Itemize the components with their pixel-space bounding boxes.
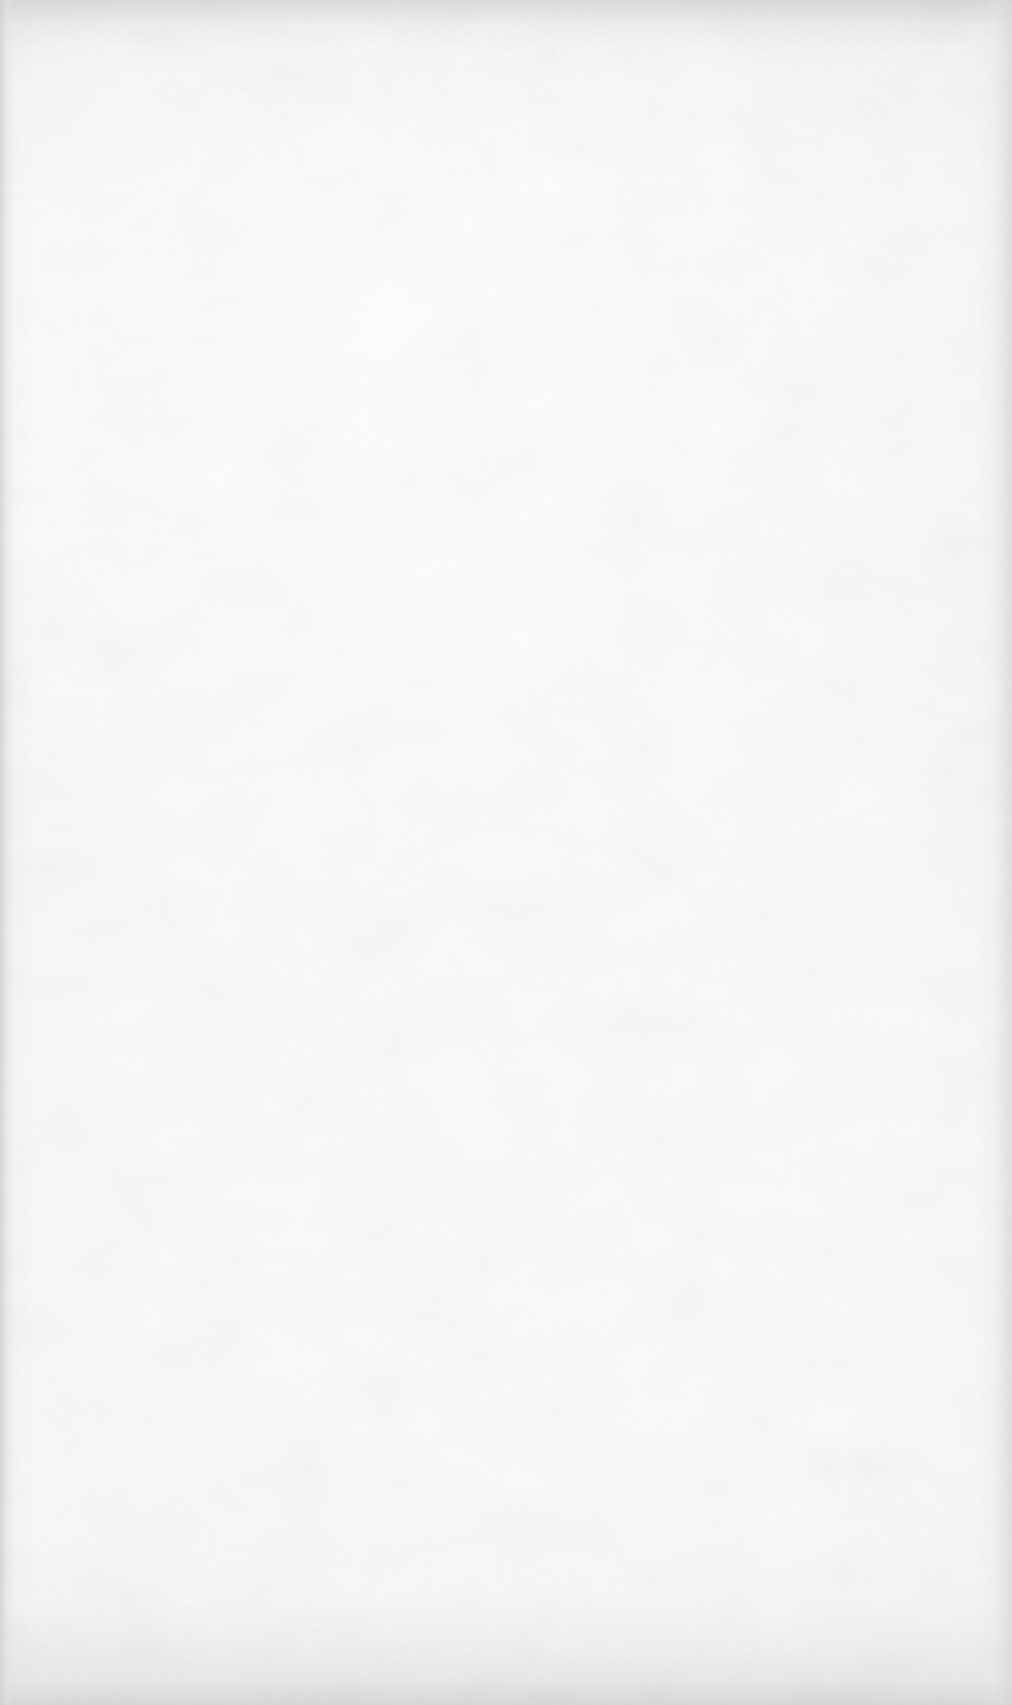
page-content-layer: No printed text, figures, rules, headers… [0,0,1012,1705]
scanned-page: No printed text, figures, rules, headers… [0,0,1012,1705]
text-block-area: No printed text, figures, rules, headers… [96,150,916,1555]
